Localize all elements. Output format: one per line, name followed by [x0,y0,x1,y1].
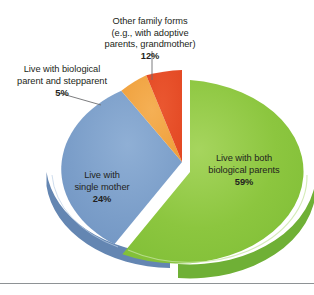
pie-chart-graphic [0,0,314,295]
pie-chart-figure: Other family forms (e.g., with adoptive … [0,0,314,295]
leader-line-stepparent [59,93,101,105]
bottom-divider-rule [0,283,314,284]
